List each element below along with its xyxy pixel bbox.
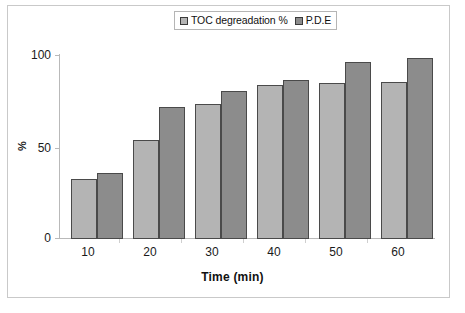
bar-toc-10: [71, 179, 97, 239]
bar-toc-50: [319, 83, 345, 239]
bar-pde-60: [407, 58, 433, 239]
legend-entry-pde: P.D.E: [295, 15, 332, 26]
x-axis-label-30: 30: [182, 245, 242, 259]
x-axis-label-60: 60: [368, 245, 428, 259]
y-axis-label-100: 100: [11, 48, 51, 62]
y-axis-tick-50: [55, 148, 60, 149]
bar-pde-30: [221, 91, 247, 239]
y-axis-line: [59, 54, 60, 239]
bar-chart-figure: TOC degreadation % P.D.E 0 50 100 %: [0, 0, 465, 313]
x-axis-label-40: 40: [244, 245, 304, 259]
x-axis-label-10: 10: [58, 245, 118, 259]
chart-legend: TOC degreadation % P.D.E: [174, 11, 337, 30]
y-axis-tick-100: [55, 55, 60, 56]
bar-toc-40: [257, 85, 283, 239]
bar-pde-20: [159, 107, 185, 239]
legend-label-pde: P.D.E: [306, 15, 332, 26]
y-axis-label-0: 0: [11, 231, 51, 245]
y-axis-title: %: [16, 136, 28, 156]
legend-swatch-toc-degreadation: [180, 17, 188, 25]
legend-label-toc-degreadation: TOC degreadation %: [191, 15, 288, 26]
bar-toc-20: [133, 140, 159, 239]
x-axis-label-50: 50: [306, 245, 366, 259]
bar-pde-10: [97, 173, 123, 239]
legend-swatch-pde: [295, 17, 303, 25]
bar-pde-50: [345, 62, 371, 240]
x-axis-title: Time (min): [0, 270, 465, 284]
y-axis-tick-0: [55, 238, 60, 239]
x-axis-label-20: 20: [120, 245, 180, 259]
bar-toc-30: [195, 104, 221, 239]
legend-entry-toc-degreadation: TOC degreadation %: [180, 15, 288, 26]
bar-toc-60: [381, 82, 407, 239]
bar-pde-40: [283, 80, 309, 239]
